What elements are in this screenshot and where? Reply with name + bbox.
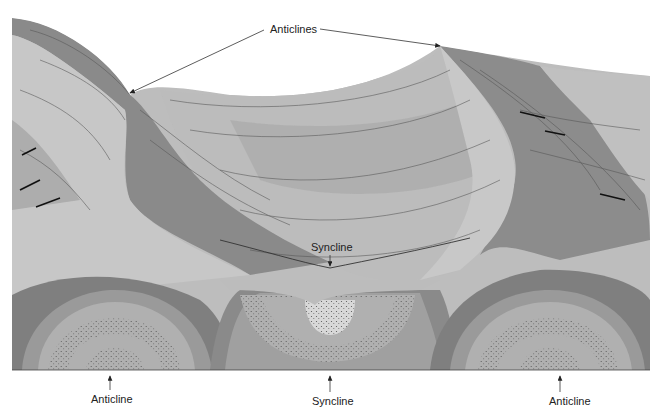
arrow-to-left-anticline [130, 30, 264, 93]
fold-diagram: Anticlines Syncline Anticline Syncline A… [0, 0, 662, 414]
label-anticline-bottom-left: Anticline [91, 393, 133, 405]
central-syncline-layers [210, 280, 455, 370]
label-syncline-middle: Syncline [311, 241, 353, 253]
arrow-to-right-anticline [320, 29, 440, 46]
label-anticlines-top: Anticlines [270, 23, 318, 35]
label-syncline-bottom: Syncline [312, 395, 354, 407]
folded-strata [12, 270, 650, 370]
label-anticline-bottom-right: Anticline [549, 395, 591, 407]
